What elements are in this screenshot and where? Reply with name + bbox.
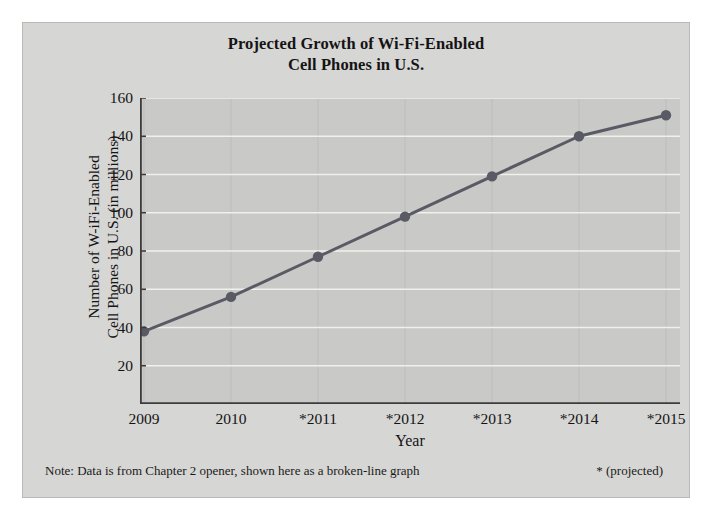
y-tick-label-140: 140 [110,127,133,145]
figure-panel: Projected Growth of Wi-Fi-Enabled Cell P… [22,22,690,498]
x-tick-label-proj-2012: *2012 [386,410,425,428]
x-tick-label-proj-2014: *2014 [560,410,599,428]
y-tick-label-60: 60 [118,280,134,298]
chart-title-line-2: Cell Phones in U.S. [23,54,689,75]
y-tick-label-120: 120 [110,166,133,184]
x-tick-label-proj-2011: *2011 [299,410,337,428]
y-tick-label-100: 100 [110,204,133,222]
chart-title-line-1: Projected Growth of Wi-Fi-Enabled [23,33,689,54]
x-tick-label-proj-2015: *2015 [647,410,686,428]
y-tick-label-80: 80 [118,242,134,260]
x-tick-label-2010: 2010 [216,410,247,428]
footer-note: Note: Data is from Chapter 2 opener, sho… [45,463,420,479]
x-tick-label-2009: 2009 [129,410,160,428]
footer-legend-projected: * (projected) [596,463,663,479]
y-tick-label-40: 40 [118,319,134,337]
line-chart-svg [140,98,680,404]
x-axis-title: Year [140,432,680,450]
y-axis-title-line-1: Number of W-iFi-Enabled [84,87,103,387]
chart-title: Projected Growth of Wi-Fi-Enabled Cell P… [23,33,689,75]
x-tick-label-proj-2013: *2013 [473,410,512,428]
y-tick-label-20: 20 [118,357,134,375]
y-tick-label-160: 160 [110,89,133,107]
plot-area-wrapper: 20406080100120140160 20092010*2011*2012*… [140,98,680,404]
